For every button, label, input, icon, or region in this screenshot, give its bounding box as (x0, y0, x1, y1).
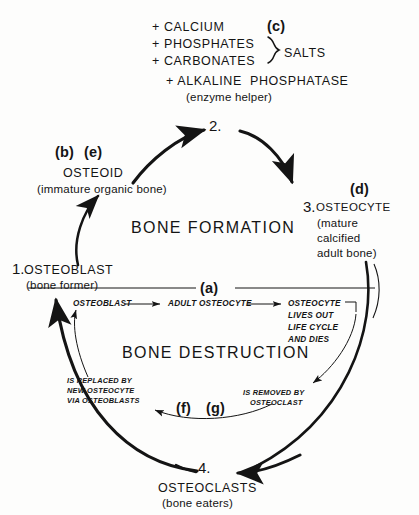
osteocyte-label: OSTEOCYTE (316, 201, 391, 214)
ingredient-calcium: + CALCIUM (152, 20, 224, 34)
enzyme-helper-note: (enzyme helper) (186, 91, 272, 104)
bone-destruction-label: BONE DESTRUCTION (122, 344, 310, 362)
salts-label: SALTS (284, 46, 326, 60)
arc-node2-to-osteocyte (240, 131, 292, 182)
note-removed-line1: IS REMOVED BY (243, 388, 304, 398)
salts-brace (268, 37, 279, 63)
osteoclasts-sub: (bone eaters) (162, 497, 233, 510)
osteocyte-sub-2: calcified (317, 232, 360, 245)
inner-step-osteocyte: OSTEOCYTE (288, 299, 341, 309)
bone-formation-label: BONE FORMATION (131, 219, 295, 237)
key-tag-c: (c) (267, 18, 285, 34)
note-replaced-line3: VIA OSTEOBLASTS (67, 396, 140, 406)
key-tag-b: (b) (55, 144, 74, 160)
inner-step-lives-out: LIVES OUT (288, 311, 333, 321)
osteoclasts-label: OSTEOCLASTS (158, 481, 257, 495)
ingredient-alkaline-phosphatase: + ALKALINE PHOSPHATASE (166, 74, 349, 88)
arc-osteoid-to-node2 (133, 130, 204, 183)
inner-step-adult-osteocyte: ADULT OSTEOCYTE (168, 299, 252, 309)
osteoblast-label: OSTEOBLAST (24, 263, 113, 277)
node-3-number: 3. (303, 199, 316, 216)
inner-curve-replaced-to-osteoblast (75, 310, 89, 377)
inner-step-osteoblast: OSTEOBLAST (73, 299, 131, 309)
osteoid-sub: (immature organic bone) (37, 183, 167, 196)
osteocyte-sub-1: (mature (317, 217, 358, 230)
line-a-right-bracket (373, 264, 379, 318)
note-removed-line2: OSTEOCLAST (250, 398, 303, 408)
ingredient-phosphates: + PHOSPHATES (152, 37, 254, 51)
osteoid-label: OSTEOID (63, 166, 123, 180)
key-tag-e: (e) (84, 144, 102, 160)
node-1-number: 1. (12, 261, 25, 278)
key-tag-g: (g) (206, 400, 225, 416)
bone-cycle-diagram: + CALCIUM + PHOSPHATES + CARBONATES SALT… (0, 0, 419, 515)
key-tag-f: (f) (176, 400, 191, 416)
osteocyte-sub-3: adult bone) (317, 247, 377, 260)
inner-step-life-cycle: LIFE CYCLE (288, 323, 338, 333)
note-replaced-line1: IS REPLACED BY (67, 376, 132, 386)
arc-right-descending (255, 262, 368, 467)
inner-bracket-osteocyte (345, 302, 356, 312)
node-4-number: 4. (198, 460, 211, 477)
key-tag-d: (d) (350, 181, 369, 197)
key-tag-a: (a) (200, 280, 218, 296)
note-replaced-line2: NEW OSTEOCYTE (67, 386, 134, 396)
node-2-number: 2. (209, 118, 222, 135)
ingredient-carbonates: + CARBONATES (152, 54, 255, 68)
osteoblast-sub: (bone former) (26, 279, 98, 292)
arrow-osteoblast-to-osteoid (76, 196, 98, 265)
